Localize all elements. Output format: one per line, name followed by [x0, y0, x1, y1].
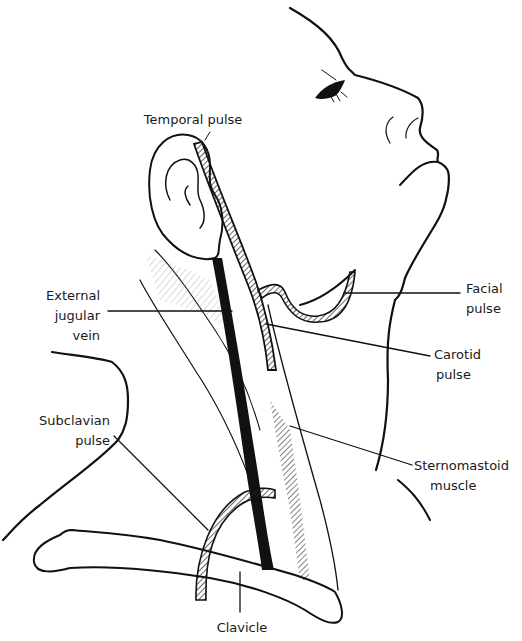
label-external-jugular-vein-line2: jugular — [20, 307, 100, 324]
label-external-jugular-vein-line1: External — [20, 287, 100, 304]
label-temporal-pulse: Temporal pulse — [128, 111, 258, 128]
eye-icon — [315, 80, 345, 99]
leader-subclavian — [114, 436, 208, 530]
label-subclavian-pulse-line1: Subclavian — [10, 412, 110, 429]
leader-carotid — [266, 324, 430, 356]
label-carotid-pulse-line2: pulse — [436, 366, 471, 383]
face-profile — [290, 8, 449, 300]
label-external-jugular-vein-line3: vein — [20, 327, 100, 344]
facial-artery — [258, 272, 355, 322]
lower-lip — [400, 162, 438, 185]
label-facial-pulse-line1: Facial — [466, 280, 503, 297]
label-sternomastoid-muscle-line2: muscle — [430, 477, 476, 494]
label-carotid-pulse-line1: Carotid — [434, 346, 481, 363]
label-clavicle: Clavicle — [200, 619, 284, 636]
label-facial-pulse-line2: pulse — [466, 300, 501, 317]
label-subclavian-pulse-line2: pulse — [10, 432, 110, 449]
label-sternomastoid-muscle-line1: Sternomastoid — [414, 457, 509, 474]
front-neck-line — [376, 300, 395, 470]
